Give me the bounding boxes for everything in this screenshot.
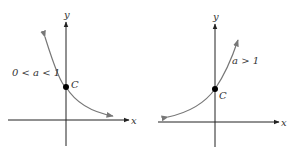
condition-label: 0 < a < 1 — [12, 67, 60, 78]
intercept-label: C — [219, 90, 227, 101]
graph-decreasing — [8, 22, 129, 146]
graph-increasing — [158, 24, 279, 147]
diagram-canvas: x y 0 < a < 1 C x y a > 1 C — [0, 0, 298, 161]
increasing-curve — [168, 40, 238, 117]
x-axis-label: x — [281, 117, 287, 128]
condition-label: a > 1 — [232, 55, 259, 66]
intercept-point — [63, 84, 69, 90]
intercept-point — [212, 86, 218, 92]
intercept-label: C — [71, 79, 79, 90]
y-axis-label: y — [63, 9, 70, 20]
x-axis-label: x — [131, 115, 137, 126]
y-axis-label: y — [212, 11, 219, 22]
